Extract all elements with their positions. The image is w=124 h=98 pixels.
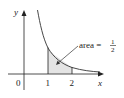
area-under-curve-diagram: y x 0 1 2 area = 1 2 bbox=[0, 0, 124, 98]
y-axis-arrow-icon bbox=[22, 10, 27, 16]
area-label: area = bbox=[79, 40, 101, 50]
y-axis-label: y bbox=[13, 7, 18, 17]
tick-label-1: 1 bbox=[46, 78, 51, 88]
leader-line bbox=[58, 46, 78, 63]
fraction-numerator: 1 bbox=[111, 38, 115, 46]
fraction-denominator: 2 bbox=[111, 46, 115, 54]
tick-label-2: 2 bbox=[70, 78, 75, 88]
x-axis-label: x bbox=[97, 78, 102, 88]
origin-label: 0 bbox=[16, 78, 21, 88]
